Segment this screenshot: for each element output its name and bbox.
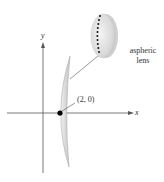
lens-cross-section bbox=[61, 56, 70, 167]
point-marker bbox=[57, 110, 62, 115]
inset-leader-line bbox=[70, 56, 98, 79]
y-axis-arrow-icon bbox=[41, 42, 45, 48]
lens-caption: aspheric lens bbox=[128, 46, 158, 66]
lens-caption-line1: aspheric bbox=[128, 46, 158, 56]
point-label: (2, 0) bbox=[77, 96, 94, 104]
x-axis bbox=[7, 111, 134, 115]
y-axis-label: y bbox=[41, 32, 45, 40]
inset-lens bbox=[91, 14, 118, 58]
x-axis-label: x bbox=[135, 109, 139, 117]
aspheric-lens-diagram bbox=[0, 0, 164, 182]
x-axis-arrow-icon bbox=[128, 111, 134, 115]
y-axis bbox=[41, 42, 45, 173]
lens-caption-line2: lens bbox=[128, 56, 158, 66]
